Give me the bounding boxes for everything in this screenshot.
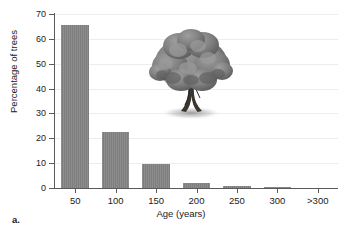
y-axis-tick-label: 20 bbox=[24, 133, 46, 143]
gridline bbox=[55, 89, 338, 90]
figure-caption: a. bbox=[12, 214, 20, 225]
y-axis-tick bbox=[49, 14, 54, 15]
gridline bbox=[55, 64, 338, 65]
y-axis-tick-label: 0 bbox=[24, 183, 46, 193]
bar bbox=[142, 164, 169, 188]
y-axis-tick bbox=[49, 64, 54, 65]
x-axis-tick bbox=[318, 189, 319, 193]
y-axis-tick-label: 30 bbox=[24, 108, 46, 118]
y-axis-tick bbox=[49, 138, 54, 139]
y-axis-tick-label: 70 bbox=[24, 9, 46, 19]
x-axis-tick bbox=[277, 189, 278, 193]
figure-panel: Percentage of trees 010203040506070 5010… bbox=[0, 0, 362, 233]
x-axis-tick-label: 300 bbox=[257, 195, 297, 206]
bar bbox=[61, 25, 88, 188]
gridline bbox=[55, 138, 338, 139]
gridline bbox=[55, 39, 338, 40]
gridline bbox=[55, 163, 338, 164]
y-axis-tick-label: 10 bbox=[24, 158, 46, 168]
x-axis-tick-label: 150 bbox=[136, 195, 176, 206]
y-axis-title: Percentage of trees bbox=[8, 0, 19, 147]
x-axis-tick-label: 50 bbox=[55, 195, 95, 206]
x-axis-tick bbox=[156, 189, 157, 193]
x-axis-tick-label: >300 bbox=[298, 195, 338, 206]
x-axis-title: Age (years) bbox=[0, 208, 362, 219]
y-axis-tick-label: 50 bbox=[24, 59, 46, 69]
x-axis-tick bbox=[116, 189, 117, 193]
gridline bbox=[55, 113, 338, 114]
x-axis-tick-label: 200 bbox=[176, 195, 216, 206]
plot-area bbox=[55, 14, 338, 188]
y-axis-tick bbox=[49, 188, 54, 189]
y-axis-line bbox=[54, 13, 55, 189]
x-axis-tick-label: 250 bbox=[217, 195, 257, 206]
x-axis-tick bbox=[237, 189, 238, 193]
bar bbox=[102, 132, 129, 188]
x-axis-tick bbox=[197, 189, 198, 193]
x-axis-tick-label: 100 bbox=[95, 195, 135, 206]
y-axis-tick-label: 40 bbox=[24, 84, 46, 94]
y-axis-tick bbox=[49, 163, 54, 164]
y-axis-tick-label: 60 bbox=[24, 34, 46, 44]
x-axis-tick bbox=[75, 189, 76, 193]
y-axis-tick bbox=[49, 113, 54, 114]
gridline bbox=[55, 14, 338, 15]
y-axis-tick bbox=[49, 39, 54, 40]
y-axis-tick bbox=[49, 89, 54, 90]
